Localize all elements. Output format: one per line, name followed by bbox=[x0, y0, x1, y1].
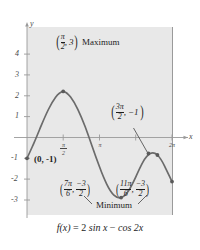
min-left-y-numerator: −3 bbox=[76, 179, 85, 188]
point-min-right bbox=[156, 153, 160, 157]
caption-lhs: f(x) bbox=[57, 222, 71, 233]
origin-point-label: (0, -1) bbox=[34, 155, 57, 164]
point-relative-max bbox=[147, 152, 151, 156]
point-maximum bbox=[61, 90, 65, 94]
close-paren: ) bbox=[146, 183, 149, 195]
min-left-x-numerator: 7π bbox=[64, 179, 72, 188]
open-paren: ( bbox=[111, 105, 114, 119]
caption-minus: − bbox=[110, 222, 116, 233]
function-caption: f(x) = 2 sin x − cos 2x bbox=[0, 222, 200, 233]
min-right-label: ( 11π 6 , −3 2 ) bbox=[115, 180, 150, 199]
x-tick-two-pi: 2π bbox=[167, 142, 177, 148]
y-tick-neg2: -2 bbox=[11, 175, 18, 183]
figure-container: y x 4 3 2 1 -1 -2 -3 π 2 π 2π (0, -1) ( … bbox=[0, 0, 200, 250]
x-tick-pi-over-2-denominator: 2 bbox=[60, 150, 67, 156]
relative-max-comma: , bbox=[124, 108, 126, 117]
min-left-comma: , bbox=[72, 185, 74, 194]
caption-cos-term: cos 2x bbox=[118, 222, 143, 233]
min-left-y-denominator: 2 bbox=[79, 189, 83, 198]
point-endpoint bbox=[170, 180, 174, 184]
min-left-x-fraction: 7π 6 bbox=[64, 180, 72, 199]
x-axis-arrow bbox=[184, 136, 189, 140]
min-right-x-fraction: 11π 6 bbox=[120, 180, 131, 199]
min-right-x-numerator: 11π bbox=[120, 179, 131, 188]
min-right-y-denominator: 2 bbox=[138, 189, 142, 198]
close-paren: ) bbox=[75, 35, 78, 49]
minimum-annotation: Minimum bbox=[96, 201, 132, 210]
x-axis-label: x bbox=[189, 133, 193, 141]
maximum-comma: , bbox=[65, 38, 67, 47]
relative-max-x-fraction: 3π 2 bbox=[116, 103, 124, 122]
y-tick-3: 3 bbox=[15, 71, 19, 79]
open-paren: ( bbox=[60, 183, 63, 195]
y-tick-neg1: -1 bbox=[11, 154, 18, 162]
min-right-x-denominator: 6 bbox=[124, 189, 128, 198]
close-paren: ) bbox=[140, 105, 143, 119]
min-left-x-denominator: 6 bbox=[66, 189, 70, 198]
y-axis-label: y bbox=[30, 20, 34, 28]
min-left-y-fraction: −3 2 bbox=[76, 180, 85, 199]
relative-max-x-denominator: 2 bbox=[118, 112, 122, 121]
y-tick-4: 4 bbox=[15, 50, 19, 58]
maximum-annotation: Maximum bbox=[82, 38, 120, 47]
point-origin bbox=[25, 156, 29, 160]
close-paren: ) bbox=[87, 183, 90, 195]
relative-max-label: ( 3π 2 , −1 ) bbox=[110, 103, 144, 122]
caption-coefficient: 2 bbox=[81, 222, 86, 233]
caption-sin-term: sin x bbox=[89, 222, 108, 233]
min-right-y-fraction: −3 2 bbox=[136, 180, 145, 199]
min-right-comma: , bbox=[131, 185, 133, 194]
y-tick-2: 2 bbox=[15, 92, 19, 100]
x-tick-pi-over-2: π 2 bbox=[60, 142, 67, 156]
y-tick-1: 1 bbox=[15, 112, 19, 120]
open-paren: ( bbox=[116, 183, 119, 195]
y-tick-neg3: -3 bbox=[11, 196, 18, 204]
x-tick-pi: π bbox=[97, 142, 103, 148]
relative-max-y-value: −1 bbox=[128, 108, 139, 117]
open-paren: ( bbox=[56, 35, 59, 49]
maximum-label: ( π 2 , 3 ) Maximum bbox=[55, 33, 120, 52]
min-right-y-numerator: −3 bbox=[136, 179, 145, 188]
relative-max-x-numerator: 3π bbox=[116, 102, 124, 111]
x-tick-pi-over-2-numerator: π bbox=[60, 142, 67, 148]
y-axis-arrow bbox=[25, 22, 29, 27]
caption-equals: = bbox=[73, 222, 79, 233]
min-left-label: ( 7π 6 , −3 2 ) bbox=[59, 180, 91, 199]
maximum-y-value: 3 bbox=[69, 38, 74, 47]
